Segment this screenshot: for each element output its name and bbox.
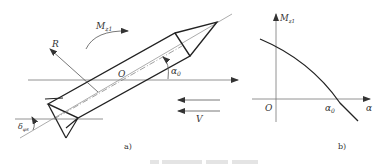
- origin-label-b: O: [265, 103, 273, 113]
- figure-caption-faint: [150, 160, 258, 164]
- figure-a: Mz1 R O α0 V δφs a): [15, 14, 238, 151]
- rocket-nose: [175, 22, 217, 56]
- caption-a: a): [124, 142, 132, 151]
- rocket-fin-upper: [45, 98, 63, 99]
- zero-crossing-label: α0: [325, 103, 335, 114]
- rocket-tail: [48, 104, 66, 138]
- figure-b: Mz1 O α0 α b): [252, 13, 372, 151]
- deflection-label: δφs: [18, 122, 29, 133]
- caption-b: b): [338, 142, 346, 151]
- force-label-r: R: [51, 39, 59, 49]
- angle-alpha0-label: α0: [171, 66, 181, 77]
- y-axis-label: Mz1: [279, 13, 295, 24]
- velocity-label: V: [196, 114, 204, 124]
- origin-label: O: [118, 69, 126, 79]
- moment-curve: [260, 39, 358, 121]
- moment-label: Mz1: [95, 21, 112, 32]
- x-axis-label: α: [366, 103, 372, 113]
- force-vector-r: [50, 49, 98, 92]
- rocket-fin-lower: [66, 118, 78, 138]
- body-centerline: [54, 46, 182, 119]
- diagram-canvas: Mz1 R O α0 V δφs a) Mz1 O α0 α b): [0, 0, 381, 165]
- moment-arrow: [86, 31, 128, 49]
